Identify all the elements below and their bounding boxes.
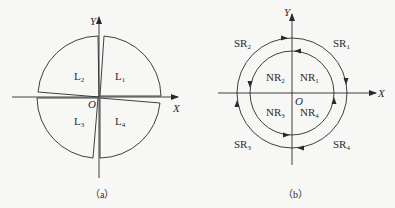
arrow-icon bbox=[235, 100, 240, 107]
region-label-sr3: SR3 bbox=[234, 138, 251, 152]
sector-l2 bbox=[38, 36, 99, 97]
origin-label-a: O bbox=[88, 98, 96, 110]
arrow-icon bbox=[294, 49, 301, 54]
x-label-a: X bbox=[172, 102, 181, 114]
figure-b: Y X O NR1 NR2 NR3 NR4 SR1 SR2 SR3 SR4 （b… bbox=[218, 6, 386, 200]
region-label-nr1: NR1 bbox=[300, 71, 319, 85]
arrow-icon bbox=[283, 133, 290, 138]
region-label-nr2: NR2 bbox=[266, 71, 285, 85]
region-label-sr4: SR4 bbox=[333, 138, 350, 152]
arrow-icon bbox=[332, 97, 337, 104]
region-label-l1: L1 bbox=[115, 70, 126, 84]
x-label-b: X bbox=[377, 87, 386, 99]
region-label-nr4: NR4 bbox=[300, 106, 319, 120]
arrow-icon bbox=[344, 78, 349, 85]
region-label-l3: L3 bbox=[74, 115, 85, 129]
caption-b: （b） bbox=[283, 189, 308, 200]
region-label-l4: L4 bbox=[115, 115, 126, 129]
arrow-icon bbox=[281, 36, 288, 41]
sector-l1 bbox=[100, 36, 161, 96]
y-label-b: Y bbox=[284, 6, 292, 18]
sector-l4 bbox=[100, 98, 160, 158]
region-label-nr3: NR3 bbox=[266, 106, 285, 120]
figure-canvas: Y X O L1 L2 L3 L4 （a） Y X bbox=[0, 0, 395, 208]
arrow-icon bbox=[297, 146, 304, 151]
figure-a: Y X O L1 L2 L3 L4 （a） bbox=[12, 15, 181, 200]
region-label-sr2: SR2 bbox=[234, 37, 251, 51]
arrow-icon bbox=[248, 81, 253, 88]
y-label-a: Y bbox=[90, 15, 98, 27]
region-label-sr1: SR1 bbox=[333, 37, 350, 51]
caption-a: （a） bbox=[90, 189, 114, 200]
region-label-l2: L2 bbox=[74, 70, 85, 84]
